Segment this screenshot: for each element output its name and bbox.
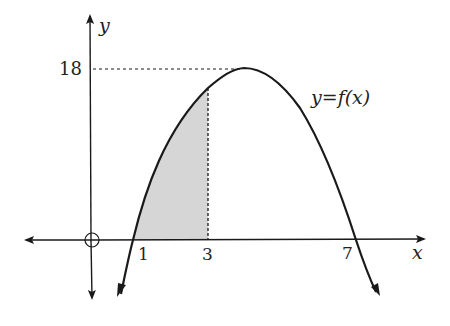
tick-label-x-7: 7 (342, 245, 353, 262)
curve-label-eq: = (322, 86, 338, 108)
diagram-canvas: y x 18 1 3 7 y=f(x) (0, 0, 450, 326)
tick-label-x-1: 1 (138, 246, 149, 263)
tick-label-y-18: 18 (59, 60, 82, 78)
shaded-area-region (133, 88, 208, 240)
y-axis-label: y (99, 16, 110, 35)
curve-left-arrow-icon (117, 283, 126, 297)
tick-label-x-3: 3 (202, 246, 213, 263)
curve-label-rhs: f(x) (338, 86, 371, 108)
y-axis-negative (91, 240, 92, 298)
curve-label: y=f(x) (311, 88, 370, 107)
x-axis-label: x (412, 243, 423, 262)
graph-svg (0, 0, 450, 326)
curve-label-lhs: y (311, 86, 322, 108)
y-axis (90, 16, 91, 240)
